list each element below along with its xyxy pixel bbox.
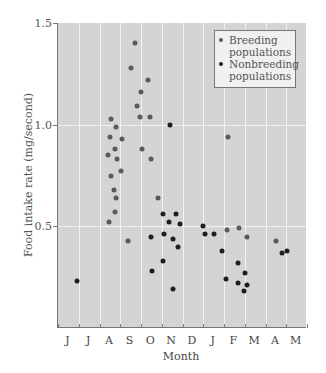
breeding-data-point [126,238,131,243]
legend: Breeding populations Nonbreeding populat… [214,30,296,88]
y-tick-label: 1.5 [35,17,53,30]
nonbreeding-data-point [162,232,167,237]
breeding-data-point [113,124,118,129]
breeding-data-point [113,195,118,200]
x-tick [286,324,287,328]
breeding-data-point [135,104,140,109]
legend-label-breeding: Breeding [229,34,291,46]
breeding-data-point [108,173,113,178]
x-tick [79,324,80,328]
nonbreeding-data-point [160,212,165,217]
x-tick-label: J [65,334,69,347]
y-tick [53,125,58,126]
breeding-data-point [137,114,142,119]
nonbreeding-data-point [175,244,180,249]
nonbreeding-data-point [178,222,183,227]
x-tick-label: A [271,334,279,347]
x-tick [245,324,246,328]
vertical-gridline [100,23,101,327]
nonbreeding-data-point [242,271,247,276]
nonbreeding-data-point [75,279,80,284]
y-axis-title: Food intake rate (mg/second) [22,93,35,257]
vertical-gridline [120,23,121,327]
nonbreeding-data-point [170,236,175,241]
breeding-data-point [120,136,125,141]
x-tick [100,324,101,328]
breeding-data-point [156,195,161,200]
breeding-data-point [106,153,111,158]
x-tick-label: A [105,334,113,347]
nonbreeding-data-point [241,289,246,294]
breeding-data-point [225,134,230,139]
x-axis-title: Month [163,350,199,363]
nonbreeding-data-point [149,269,154,274]
breeding-data-point [274,238,279,243]
legend-label-nonbreeding: Nonbreeding [229,58,291,70]
nonbreeding-data-point [160,258,165,263]
x-tick-label: S [126,334,134,347]
nonbreeding-data-point [168,122,173,127]
x-tick-label: J [210,334,214,347]
x-tick [183,324,184,328]
x-tick [120,324,121,328]
x-tick [307,324,308,328]
legend-label-nonbreeding-2: populations [229,70,291,82]
x-tick-label: F [230,334,238,347]
y-tick-label: 1.0 [35,118,53,131]
breeding-data-point [107,220,112,225]
vertical-gridline [162,23,163,327]
x-tick [224,324,225,328]
y-tick [53,226,58,227]
x-tick [58,324,59,328]
x-tick [141,324,142,328]
x-tick-label: N [166,334,176,347]
x-tick [266,324,267,328]
nonbreeding-data-point [201,224,206,229]
legend-item-nonbreeding: Nonbreeding populations [219,58,291,82]
breeding-data-point [114,157,119,162]
breeding-data-point [147,114,152,119]
nonbreeding-data-point [235,281,240,286]
x-tick [162,324,163,328]
breeding-data-point [140,147,145,152]
nonbreeding-data-point [170,287,175,292]
breeding-data-point [148,157,153,162]
y-tick-label: 0.5 [35,220,53,233]
nonbreeding-data-point [280,250,285,255]
x-tick [203,324,204,328]
vertical-gridline [203,23,204,327]
breeding-data-point [112,187,117,192]
breeding-data-point [236,226,241,231]
breeding-data-point [108,134,113,139]
nonbreeding-data-point [284,248,289,253]
nonbreeding-data-point [245,283,250,288]
vertical-gridline [183,23,184,327]
vertical-gridline [141,23,142,327]
nonbreeding-data-point [235,260,240,265]
nonbreeding-data-point [203,232,208,237]
breeding-data-point [245,234,250,239]
horizontal-gridline [58,226,306,227]
breeding-data-point [129,65,134,70]
breeding-data-point [139,90,144,95]
nonbreeding-data-point [219,248,224,253]
nonbreeding-data-point [174,212,179,217]
legend-label-breeding-2: populations [229,46,291,58]
legend-item-breeding: Breeding populations [219,34,291,58]
x-tick-label: M [248,334,259,347]
breeding-data-point [146,77,151,82]
breeding-marker-icon [219,38,223,42]
x-tick-label: D [187,334,196,347]
nonbreeding-data-point [212,232,217,237]
nonbreeding-data-point [167,220,172,225]
x-tick-label: M [290,334,301,347]
nonbreeding-data-point [224,277,229,282]
horizontal-gridline [58,125,306,126]
x-tick-label: O [146,334,155,347]
breeding-data-point [113,147,118,152]
y-tick [53,23,58,24]
breeding-data-point [224,228,229,233]
breeding-data-point [118,169,123,174]
breeding-data-point [132,41,137,46]
x-tick-label: J [86,334,90,347]
